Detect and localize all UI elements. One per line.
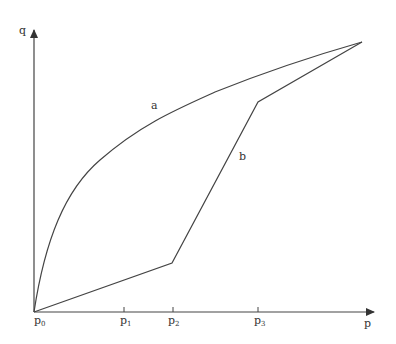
curve-a-label: a	[151, 99, 158, 112]
tick-label-p2: p2	[168, 314, 180, 328]
tick-label-p1: p1	[120, 314, 132, 328]
tick-label-p3: p3	[254, 314, 266, 328]
y-axis-label: q	[19, 24, 26, 37]
diagram: q p a b p0 p1 p2 p3	[0, 0, 396, 344]
curve-a	[34, 42, 362, 312]
curve-b-label: b	[239, 150, 246, 163]
x-axis-label: p	[364, 317, 371, 330]
origin-label: p0	[34, 314, 46, 328]
